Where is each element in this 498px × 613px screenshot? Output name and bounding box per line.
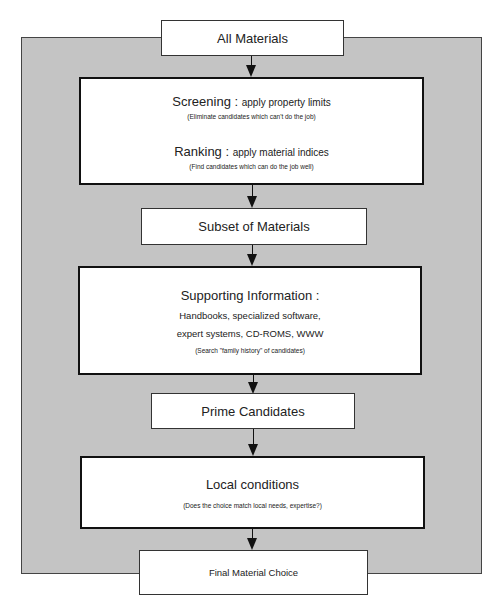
supporting-line-2: expert systems, CD-ROMS, WWW [177, 328, 324, 339]
node-local-conditions: Local conditions (Does the choice match … [80, 456, 425, 529]
supporting-title: Supporting Information : [181, 288, 320, 303]
node-label: All Materials [217, 31, 288, 46]
node-prime-candidates: Prime Candidates [151, 393, 355, 429]
node-label: Prime Candidates [201, 404, 304, 419]
ranking-note: (Find candidates which can do the job we… [174, 163, 329, 170]
local-note: (Does the choice match local needs, expe… [183, 502, 322, 509]
node-final-material-choice: Final Material Choice [139, 550, 368, 595]
screening-action: apply property limits [242, 97, 331, 108]
ranking-action: apply material indices [233, 147, 329, 158]
node-label: Final Material Choice [209, 567, 298, 578]
node-subset-of-materials: Subset of Materials [141, 208, 367, 245]
node-label: Subset of Materials [198, 219, 309, 234]
local-title: Local conditions [206, 477, 299, 492]
supporting-line-1: Handbooks, specialized software, [179, 310, 321, 321]
node-all-materials: All Materials [161, 20, 344, 56]
screening-note: (Eliminate candidates which can't do the… [172, 113, 330, 120]
ranking-title: Ranking [174, 144, 222, 159]
screening-title: Screening [172, 94, 231, 109]
supporting-note: (Search "family history" of candidates) [195, 347, 305, 354]
node-screening-ranking: Screening : apply property limits (Elimi… [79, 77, 424, 185]
separator: : [231, 94, 242, 109]
node-supporting-information: Supporting Information : Handbooks, spec… [78, 266, 422, 375]
separator: : [222, 144, 233, 159]
